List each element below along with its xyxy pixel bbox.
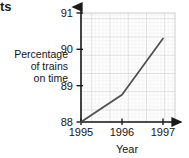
- y-tick-label-89: 89: [61, 80, 73, 92]
- chart-screenshot: ts Percentage of trains on time: [0, 0, 189, 158]
- grid-area: [81, 13, 175, 122]
- x-tick-label-1997: 1997: [151, 126, 175, 138]
- x-tick-label-1995: 1995: [69, 126, 93, 138]
- y-tick-label-91: 91: [61, 7, 73, 19]
- x-tick-label-1996: 1996: [110, 126, 134, 138]
- line-chart: 91 90 89 88 1995 1996 1997 Year: [0, 0, 189, 158]
- x-axis-title: Year: [116, 143, 139, 155]
- y-tick-label-90: 90: [61, 43, 73, 55]
